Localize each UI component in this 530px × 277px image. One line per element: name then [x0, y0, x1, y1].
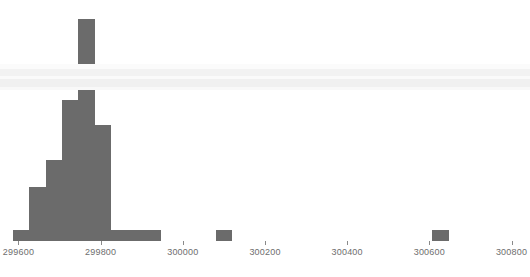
histogram-bar [432, 230, 448, 241]
histogram-bar [216, 230, 232, 241]
histogram-bar [111, 230, 127, 241]
histogram-bar [144, 230, 160, 241]
histogram-bar [78, 19, 94, 241]
histogram-bar [13, 230, 29, 241]
x-axis-tick-label: 300000 [167, 247, 198, 257]
tick-mark [429, 241, 430, 245]
tick-mark [347, 241, 348, 245]
histogram-bar [95, 125, 111, 241]
x-axis-tick-label: 300400 [332, 247, 363, 257]
x-axis-tick-label: 300600 [414, 247, 445, 257]
x-axis-tick-label: 299800 [85, 247, 116, 257]
x-axis-tick-label: 300800 [496, 247, 527, 257]
tick-mark [18, 241, 19, 245]
histogram-bar [46, 160, 62, 241]
plot-area [0, 0, 530, 241]
histogram-bar [128, 230, 144, 241]
x-axis-tick-label: 300200 [249, 247, 280, 257]
x-axis: 2996002998003000003002003004003006003008… [0, 241, 530, 277]
x-axis-tick-label: 299600 [3, 247, 34, 257]
histogram-bar [29, 187, 45, 241]
tick-mark [183, 241, 184, 245]
tick-mark [101, 241, 102, 245]
tick-mark [512, 241, 513, 245]
tick-mark [265, 241, 266, 245]
histogram-bar [62, 100, 78, 241]
histogram-figure: 2996002998003000003002003004003006003008… [0, 0, 530, 277]
